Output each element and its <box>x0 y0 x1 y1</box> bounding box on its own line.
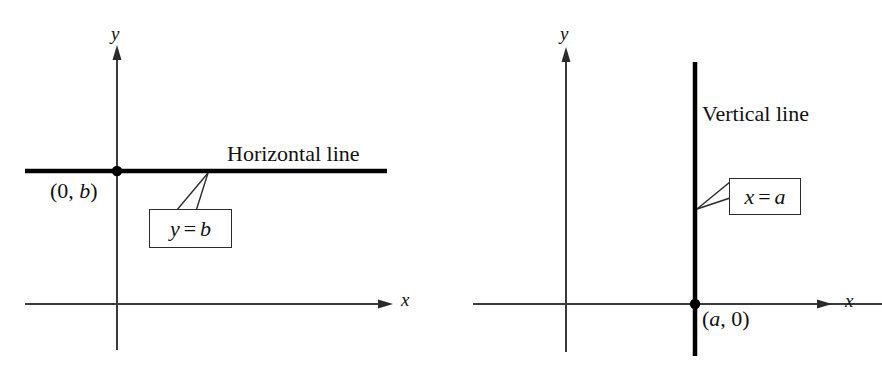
y-axis-label: y <box>111 24 119 43</box>
x-axis-arrowhead <box>378 300 393 309</box>
equation-callout-text: y=b <box>170 216 211 242</box>
equation-operator: = <box>758 184 770 209</box>
intercept-point <box>112 166 122 176</box>
callout-leader <box>176 173 208 211</box>
y-axis-arrowhead <box>113 45 122 60</box>
equation-callout-text: x=a <box>744 184 785 210</box>
intercept-label: (a, 0) <box>702 308 750 330</box>
intercept-label: (0, b) <box>50 180 98 202</box>
vertical-line-caption: Vertical line <box>702 103 809 125</box>
callout-leader-second <box>697 198 730 209</box>
equation-callout-box: x=a <box>729 178 801 215</box>
callout-leader-second <box>196 173 208 211</box>
intercept-label-prefix: (0, <box>50 178 79 203</box>
callout-leader <box>697 182 730 209</box>
horizontal-line-panel: y x Horizontal line (0, b) y=b <box>0 0 441 371</box>
two-panel-line-figure: y x Horizontal line (0, b) y=b <box>0 0 882 371</box>
intercept-label-suffix: , 0) <box>720 306 749 331</box>
y-axis-arrowhead <box>562 47 571 62</box>
equation-operator: = <box>184 216 196 241</box>
horizontal-line-caption: Horizontal line <box>227 143 360 165</box>
intercept-label-suffix: ) <box>90 178 97 203</box>
vertical-line-graph <box>441 0 882 371</box>
equation-rhs: b <box>200 216 211 241</box>
intercept-label-variable: a <box>709 306 720 331</box>
vertical-line-panel: y x Vertical line (a, 0) x=a <box>441 0 882 371</box>
equation-callout-box: y=b <box>149 209 232 248</box>
x-axis-label: x <box>845 291 853 310</box>
intercept-point <box>690 299 700 309</box>
equation-lhs: x <box>744 184 754 209</box>
equation-lhs: y <box>170 216 180 241</box>
equation-rhs: a <box>775 184 786 209</box>
x-axis-label: x <box>401 290 409 309</box>
intercept-label-variable: b <box>79 178 90 203</box>
y-axis-label: y <box>560 24 568 43</box>
x-axis-arrowhead <box>817 300 832 309</box>
